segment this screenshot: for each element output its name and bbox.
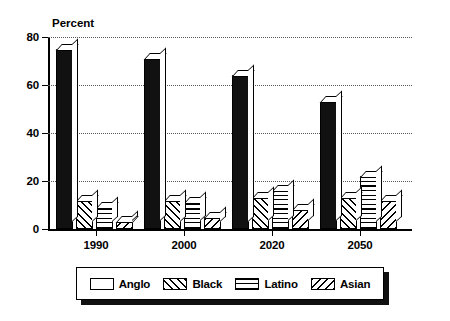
y-axis-tick-label: 60 [27, 79, 39, 91]
x-axis-tick [96, 229, 97, 236]
x-axis-label-2000: 2000 [172, 239, 197, 251]
bar-rect [292, 210, 309, 229]
bar-rect [252, 198, 269, 229]
bar-rect [76, 200, 93, 229]
bar-side-face [248, 64, 254, 221]
bar-side-face [288, 179, 294, 221]
bar-rect [96, 207, 113, 229]
chart-legend: AngloBlackLatinoAsian [76, 267, 384, 300]
bar-rect [320, 102, 337, 229]
x-axis-label-2020: 2020 [260, 239, 285, 251]
bar-rect [340, 198, 357, 229]
bar-side-face [356, 187, 362, 222]
x-axis-tick [184, 229, 185, 236]
bar-rect [56, 49, 73, 229]
legend-item-anglo[interactable]: Anglo [90, 278, 151, 290]
bar-rect [184, 203, 201, 229]
bar-group [56, 37, 136, 229]
x-axis-label-1990: 1990 [84, 239, 109, 251]
y-axis-title: Percent [52, 17, 94, 29]
bar-group [232, 37, 312, 229]
legend-swatch-anglo-icon [90, 278, 114, 290]
bar-group [144, 37, 224, 229]
legend-item-asian[interactable]: Asian [311, 278, 370, 290]
legend-label: Asian [340, 278, 370, 290]
y-axis-tick [42, 85, 48, 86]
bar-side-face [220, 206, 226, 222]
bar-rect [380, 200, 397, 229]
legend-swatch-asian-icon [311, 278, 335, 290]
bar-rect [144, 59, 161, 229]
x-axis-label-2050: 2050 [348, 239, 373, 251]
bar-side-face [336, 91, 342, 222]
bar-side-face [160, 47, 166, 221]
bar-side-face [112, 196, 118, 221]
y-axis-tick [42, 37, 48, 38]
bar-side-face [180, 189, 186, 222]
bar-side-face [72, 38, 78, 222]
chart-canvas: Percent 020406080 1990200020202050 Anglo… [0, 0, 450, 321]
y-axis-tick [42, 133, 48, 134]
legend-swatch-latino-icon [235, 278, 259, 290]
legend-item-latino[interactable]: Latino [235, 278, 297, 290]
x-axis-line [48, 229, 412, 231]
y-axis-tick-label: 20 [27, 175, 39, 187]
y-axis-tick [42, 229, 48, 230]
legend-item-black[interactable]: Black [163, 278, 222, 290]
y-axis-tick-label: 80 [27, 31, 39, 43]
bar-side-face [376, 165, 382, 222]
bar-rect [164, 200, 181, 229]
bar-side-face [396, 189, 402, 222]
plot-area: 020406080 1990200020202050 [48, 37, 412, 229]
bar-rect [272, 191, 289, 229]
bar-side-face [92, 189, 98, 222]
legend-label: Black [192, 278, 222, 290]
bar-rect [232, 75, 249, 229]
bar-side-face [308, 199, 314, 222]
bar-rect [360, 176, 377, 229]
legend-label: Anglo [119, 278, 151, 290]
legend-swatch-black-icon [163, 278, 187, 290]
y-axis-tick-label: 40 [27, 127, 39, 139]
y-axis-tick [42, 181, 48, 182]
legend-label: Latino [264, 278, 297, 290]
bar-rect [116, 222, 133, 229]
bar-group [320, 37, 400, 229]
bar-side-face [268, 187, 274, 222]
bar-rect [204, 217, 221, 229]
x-axis-tick [360, 229, 361, 236]
x-axis-tick [272, 229, 273, 236]
y-axis-tick-label: 0 [33, 223, 39, 235]
